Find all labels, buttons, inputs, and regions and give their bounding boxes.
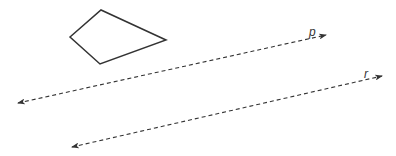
line-r: [72, 76, 382, 147]
diagram-canvas: p r: [0, 0, 396, 156]
diagram-svg: p r: [0, 0, 396, 156]
line-p-label: p: [308, 25, 316, 39]
quadrilateral: [70, 10, 166, 64]
line-p: [18, 35, 326, 103]
